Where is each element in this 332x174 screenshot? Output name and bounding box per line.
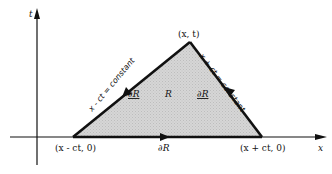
right-side-boundary-label: ∂R bbox=[197, 89, 209, 99]
base-boundary-label: ∂R bbox=[158, 143, 170, 153]
right-base-label: (x + ct, 0) bbox=[240, 143, 285, 153]
characteristic-triangle-diagram: (x, t) (x - ct, 0) (x + ct, 0) t x R ∂R … bbox=[0, 0, 332, 174]
t-axis-label: t bbox=[29, 9, 33, 19]
t-axis-arrow-icon bbox=[34, 8, 40, 19]
x-axis-label: x bbox=[318, 143, 323, 153]
left-side-boundary-label: ∂R bbox=[128, 89, 140, 99]
x-axis-arrow-icon bbox=[315, 134, 327, 140]
t-axis bbox=[34, 8, 40, 165]
region-label: R bbox=[164, 89, 172, 99]
apex-label: (x, t) bbox=[178, 29, 199, 39]
left-base-label: (x - ct, 0) bbox=[55, 143, 96, 153]
